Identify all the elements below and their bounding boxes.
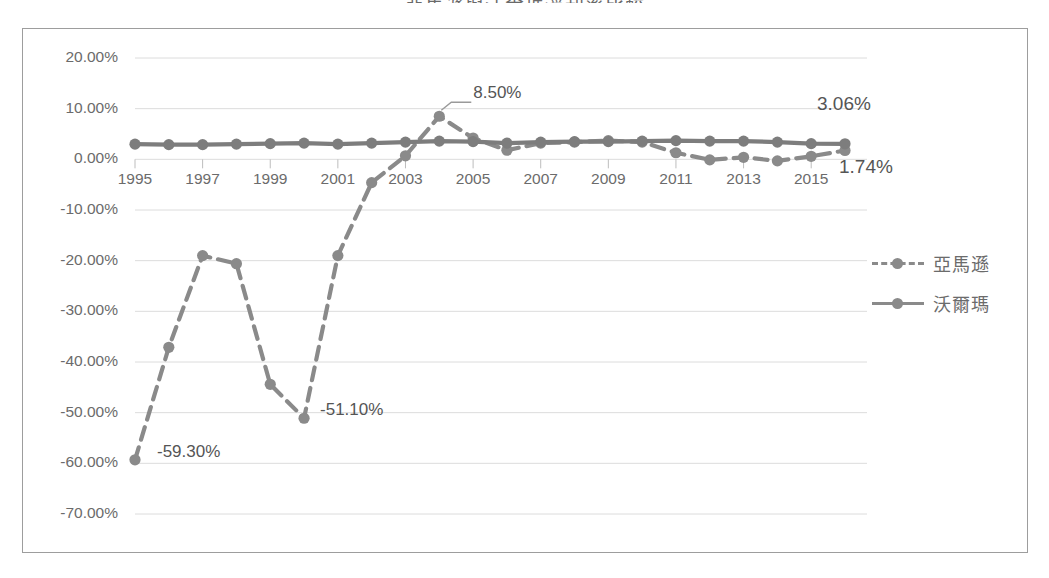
- chart-legend: 亞馬遜 沃爾瑪: [872, 243, 1022, 323]
- x-axis-tick-label: 2013: [714, 170, 774, 188]
- y-axis-tick-label: -10.00%: [32, 200, 118, 218]
- legend-label-walmart: 沃爾瑪: [933, 290, 990, 316]
- x-axis-tick-label: 2005: [443, 170, 503, 188]
- data-point-label: -59.30%: [157, 442, 220, 462]
- x-axis-tick-label: 2007: [511, 170, 571, 188]
- y-axis-tick-label: -20.00%: [32, 251, 118, 269]
- x-axis-tick-label: 1999: [240, 170, 300, 188]
- legend-item-amazon[interactable]: 亞馬遜: [872, 243, 1022, 283]
- data-point-label: 8.50%: [473, 83, 521, 103]
- x-axis-tick-label: 2015: [781, 170, 841, 188]
- y-axis-tick-label: -30.00%: [32, 301, 118, 319]
- y-axis-tick-label: 20.00%: [32, 48, 118, 66]
- x-axis-tick-label: 2001: [308, 170, 368, 188]
- y-axis-tick-label: -40.00%: [32, 352, 118, 370]
- y-axis-tick-label: -50.00%: [32, 403, 118, 421]
- x-axis-tick-label: 2009: [578, 170, 638, 188]
- legend-label-amazon: 亞馬遜: [933, 250, 990, 276]
- y-axis-tick-label: 10.00%: [32, 99, 118, 117]
- y-axis-tick-label: -70.00%: [32, 504, 118, 522]
- y-axis-tick-label: -60.00%: [32, 453, 118, 471]
- x-axis-tick-label: 1997: [173, 170, 233, 188]
- data-point-label: 3.06%: [817, 93, 871, 115]
- y-axis-tick-label: 0.00%: [32, 149, 118, 167]
- legend-dashed-line-icon: [872, 256, 924, 270]
- data-point-label: -51.10%: [320, 400, 383, 420]
- legend-solid-line-icon: [872, 296, 924, 310]
- data-point-label: 1.74%: [839, 156, 893, 178]
- x-axis-tick-label: 1995: [105, 170, 165, 188]
- legend-item-walmart[interactable]: 沃爾瑪: [872, 283, 1022, 323]
- x-axis-tick-label: 2003: [375, 170, 435, 188]
- x-axis-tick-label: 2011: [646, 170, 706, 188]
